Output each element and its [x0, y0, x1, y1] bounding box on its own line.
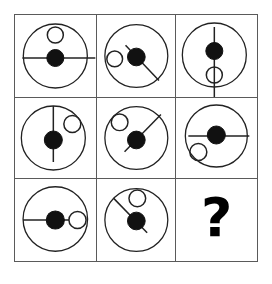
- small-open-circle: [106, 51, 122, 67]
- matrix-grid: ?: [14, 14, 258, 262]
- figure-circle-horizontal-line-dot-right: [15, 179, 96, 261]
- matrix-cell-r1c3[interactable]: [176, 15, 257, 97]
- figure-circle-diagonal-nwse-dot-left: [97, 15, 176, 97]
- center-dot: [127, 48, 145, 66]
- figure-circle-diagonal-nwse-dot-above-right: [97, 179, 176, 261]
- center-dot: [47, 50, 64, 67]
- question-mark-glyph: ?: [176, 179, 257, 261]
- matrix-cell-r2c2[interactable]: [96, 97, 177, 179]
- figure-circle-vertical-line-dot-below: [176, 15, 257, 97]
- figure-circle-horizontal-line-dot-above: [15, 15, 96, 97]
- puzzle-root: ?: [0, 0, 272, 284]
- small-open-circle: [69, 211, 86, 228]
- small-open-circle: [111, 114, 128, 131]
- matrix-cell-r2c3[interactable]: [176, 97, 257, 179]
- matrix-cell-r1c2[interactable]: [96, 15, 177, 97]
- center-dot: [208, 126, 226, 144]
- matrix-cell-r1c1[interactable]: [15, 15, 96, 97]
- figure-circle-diagonal-swne-dot-upper-left: [97, 98, 176, 178]
- figure-circle-vertical-line-dot-upper-right: [15, 98, 96, 178]
- matrix-cell-r3c3-missing[interactable]: ?: [176, 179, 257, 261]
- small-open-circle: [129, 190, 146, 207]
- matrix-cell-r2c1[interactable]: [15, 97, 96, 179]
- small-open-circle: [47, 27, 63, 43]
- center-dot: [44, 131, 62, 149]
- matrix-cell-r3c1[interactable]: [15, 179, 96, 261]
- figure-circle-horizontal-line-dot-lower-left: [176, 98, 257, 178]
- small-open-circle: [64, 116, 81, 133]
- small-open-circle: [190, 144, 207, 161]
- matrix-cell-r3c2[interactable]: [96, 179, 177, 261]
- center-dot: [46, 211, 64, 229]
- center-dot: [206, 43, 223, 60]
- center-dot: [127, 131, 145, 149]
- center-dot: [127, 212, 145, 230]
